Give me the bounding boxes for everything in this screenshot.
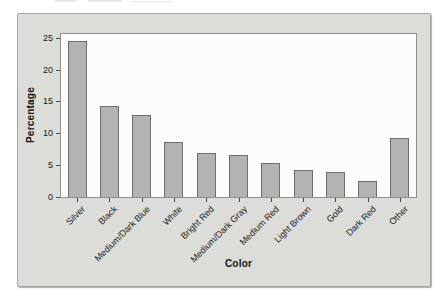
bar — [197, 153, 216, 197]
x-tick-label: Other — [387, 204, 410, 227]
x-tick-label: Black — [96, 204, 119, 227]
x-tick-label: Gold — [325, 204, 346, 225]
y-tick-label: 0 — [26, 192, 53, 202]
x-tick-mark — [303, 198, 304, 202]
x-tick-label: Dark Red — [344, 204, 378, 238]
y-tick-label: 25 — [26, 33, 53, 43]
y-tick-label: 20 — [26, 65, 53, 75]
x-tick-mark — [271, 198, 272, 202]
bar — [68, 41, 87, 197]
bar — [100, 106, 119, 197]
bar — [390, 138, 409, 197]
y-tick-label: 5 — [26, 160, 53, 170]
x-tick-mark — [174, 198, 175, 202]
x-tick-mark — [206, 198, 207, 202]
bar — [132, 115, 151, 197]
x-tick-label: White — [161, 204, 184, 227]
y-tick-mark — [56, 165, 60, 166]
bar — [229, 155, 248, 197]
bar — [326, 172, 345, 197]
page: { "style": { "page_bg": "#ffffff", "figu… — [0, 0, 445, 300]
x-tick-mark — [368, 198, 369, 202]
y-tick-label: 15 — [26, 96, 53, 106]
bar — [358, 181, 377, 197]
y-tick-mark — [56, 133, 60, 134]
chart-figure: Percentage Color 0510152025 SilverBlackM… — [17, 13, 431, 287]
bar — [294, 170, 313, 197]
x-tick-mark — [109, 198, 110, 202]
bar — [164, 142, 183, 197]
y-tick-mark — [56, 197, 60, 198]
x-tick-mark — [77, 198, 78, 202]
y-tick-label: 10 — [26, 128, 53, 138]
y-tick-mark — [56, 38, 60, 39]
x-axis-title: Color — [60, 258, 417, 269]
y-axis-title: Percentage — [22, 33, 38, 198]
x-tick-mark — [400, 198, 401, 202]
x-tick-label: Medium/Dark Gray — [189, 204, 249, 264]
x-tick-mark — [335, 198, 336, 202]
bar — [261, 163, 280, 197]
x-tick-label: Silver — [64, 204, 87, 227]
y-tick-mark — [56, 70, 60, 71]
plot-area — [60, 33, 417, 198]
x-tick-mark — [239, 198, 240, 202]
x-tick-mark — [142, 198, 143, 202]
y-tick-mark — [56, 101, 60, 102]
